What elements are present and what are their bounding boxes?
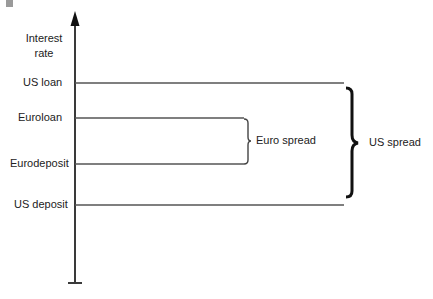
label-us-deposit: US deposit xyxy=(14,198,68,210)
label-euro-spread: Euro spread xyxy=(256,134,316,146)
us-spread-brace xyxy=(346,88,358,197)
label-us-spread: US spread xyxy=(369,136,421,148)
label-eurodeposit: Eurodeposit xyxy=(10,157,69,169)
label-us-loan: US loan xyxy=(23,76,62,88)
axis-title-line2: rate xyxy=(20,46,68,61)
axis-title-line1: Interest xyxy=(20,31,68,46)
label-euroloan: Euroloan xyxy=(18,111,62,123)
axis-title: Interest rate xyxy=(20,31,68,61)
axis-arrow-icon xyxy=(71,11,80,26)
euro-spread-brace xyxy=(244,119,251,164)
